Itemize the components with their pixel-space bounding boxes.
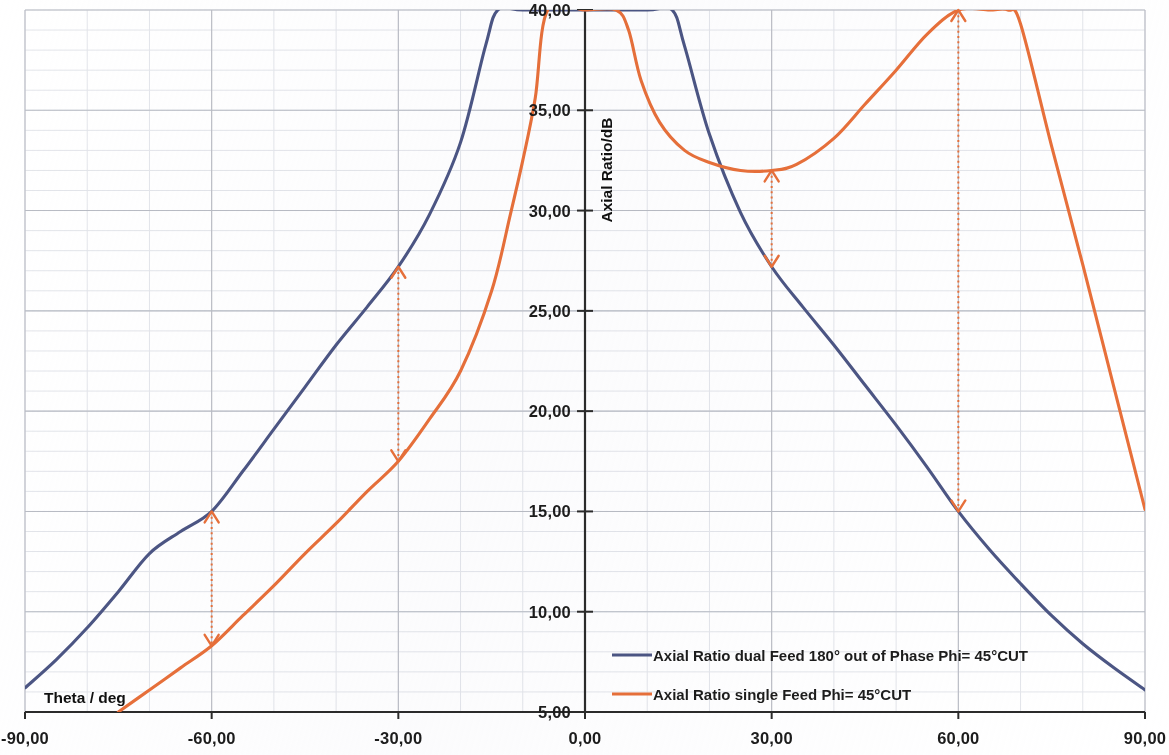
axis-lines	[25, 10, 1145, 712]
y-axis-tick-label: 5,00	[538, 703, 571, 721]
legend-item-label: Axial Ratio dual Feed 180° out of Phase …	[653, 647, 1028, 664]
y-axis-tick-label: 35,00	[529, 101, 571, 119]
y-axis-tick-labels: 5,0010,0015,0020,0025,0030,0035,0040,00	[529, 1, 571, 721]
y-axis-tick-label: 10,00	[529, 603, 571, 621]
legend-item-label: Axial Ratio single Feed Phi= 45°CUT	[653, 686, 911, 703]
x-axis-tick-label: 90,00	[1124, 729, 1166, 747]
x-axis-tick-labels: -90,00-60,00-30,000,0030,0060,0090,00	[1, 729, 1166, 747]
x-axis-tick-label: -30,00	[374, 729, 422, 747]
y-axis-tick-label: 20,00	[529, 402, 571, 420]
legend-item-dual-feed: Axial Ratio dual Feed 180° out of Phase …	[612, 647, 1028, 664]
x-axis-tick-label: 30,00	[751, 729, 793, 747]
y-axis-tick-label: 40,00	[529, 1, 571, 19]
x-axis-tick-label: 60,00	[937, 729, 979, 747]
legend-item-single-feed: Axial Ratio single Feed Phi= 45°CUT	[612, 686, 911, 703]
y-axis-tick-label: 15,00	[529, 502, 571, 520]
y-axis-tick-label: 25,00	[529, 302, 571, 320]
x-axis-tick-label: -90,00	[1, 729, 49, 747]
x-axis-title: Theta / deg	[44, 689, 126, 706]
legend: Axial Ratio dual Feed 180° out of Phase …	[612, 647, 1028, 703]
chart-canvas: -90,00-60,00-30,000,0030,0060,0090,00 5,…	[0, 0, 1169, 755]
y-axis-title: Axial Ratio/dB	[598, 117, 615, 222]
x-axis-tick-label: -60,00	[188, 729, 236, 747]
axial-ratio-chart: -90,00-60,00-30,000,0030,0060,0090,00 5,…	[0, 0, 1169, 755]
y-axis-tick-label: 30,00	[529, 202, 571, 220]
x-axis-tick-label: 0,00	[569, 729, 602, 747]
